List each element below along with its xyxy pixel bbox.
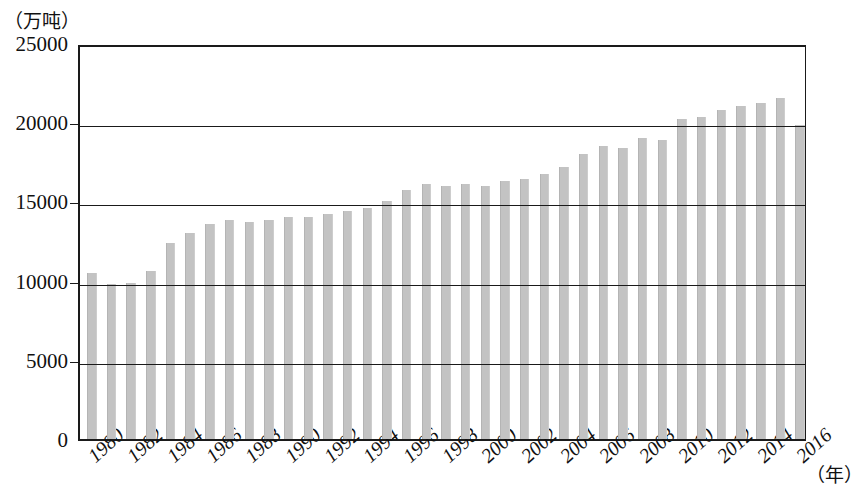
gridline bbox=[80, 285, 805, 286]
y-axis-tick-label: 5000 bbox=[0, 351, 68, 372]
x-axis-tick-labels: 1980198219841986198819901992199419961998… bbox=[78, 441, 806, 496]
y-axis-tick-label: 25000 bbox=[0, 34, 68, 55]
bar bbox=[520, 179, 529, 439]
plot-area bbox=[78, 45, 806, 441]
bar bbox=[205, 224, 214, 439]
bar-series bbox=[80, 47, 805, 439]
bar bbox=[87, 273, 96, 439]
gridline bbox=[80, 364, 805, 365]
gridline bbox=[80, 126, 805, 127]
x-axis-unit-label: （年） bbox=[806, 460, 855, 487]
bar bbox=[304, 217, 313, 439]
bar bbox=[500, 181, 509, 439]
bar bbox=[638, 138, 647, 439]
bar bbox=[343, 211, 352, 439]
bar bbox=[579, 154, 588, 439]
bar bbox=[481, 186, 490, 439]
bar bbox=[461, 184, 470, 439]
bar bbox=[540, 174, 549, 439]
bar bbox=[323, 214, 332, 439]
bar bbox=[185, 233, 194, 439]
y-axis-tick-label: 10000 bbox=[0, 272, 68, 293]
bar bbox=[618, 148, 627, 439]
bar bbox=[107, 284, 116, 439]
bar bbox=[776, 98, 785, 439]
bar bbox=[264, 220, 273, 439]
bar bbox=[166, 243, 175, 439]
bar bbox=[225, 220, 234, 439]
bar bbox=[245, 222, 254, 439]
bar bbox=[795, 125, 804, 439]
y-axis-tick-label: 20000 bbox=[0, 113, 68, 134]
bar bbox=[717, 110, 726, 439]
bar bbox=[146, 271, 155, 439]
bar bbox=[126, 283, 135, 439]
bar bbox=[559, 167, 568, 439]
y-axis-tick-label: 15000 bbox=[0, 192, 68, 213]
bar bbox=[422, 184, 431, 439]
bar bbox=[736, 106, 745, 439]
bar bbox=[382, 201, 391, 439]
bar bbox=[756, 103, 765, 439]
bar bbox=[402, 190, 411, 439]
y-axis-unit-label: （万吨） bbox=[4, 6, 80, 33]
bar bbox=[363, 208, 372, 439]
bar bbox=[658, 140, 667, 439]
bar bbox=[599, 146, 608, 439]
y-axis-tick-label: 0 bbox=[0, 430, 68, 451]
bar bbox=[677, 119, 686, 439]
bar bbox=[697, 117, 706, 439]
bar bbox=[441, 186, 450, 439]
bar bbox=[284, 217, 293, 439]
gridline bbox=[80, 205, 805, 206]
